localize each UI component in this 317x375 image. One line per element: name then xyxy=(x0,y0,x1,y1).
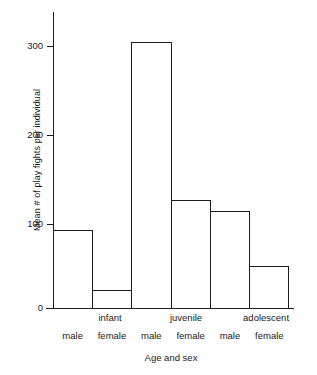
x-age-label-0 xyxy=(53,312,91,323)
x-axis-age-labels: infant juvenile adolescent xyxy=(53,312,289,323)
bar-adolescent-female xyxy=(249,266,289,308)
x-axis-sex-labels: male female male female male female xyxy=(53,330,289,341)
x-age-label-2 xyxy=(129,312,167,323)
x-age-label-4 xyxy=(205,312,243,323)
x-age-label-5: adolescent xyxy=(243,312,289,323)
x-sex-label-1: female xyxy=(92,330,131,341)
x-age-label-1: infant xyxy=(91,312,129,323)
y-tick-mark-0 xyxy=(47,308,54,309)
x-sex-label-5: female xyxy=(250,330,289,341)
bar-series xyxy=(53,12,289,308)
y-axis-title: Mean # of play fights per individual xyxy=(32,60,42,260)
x-sex-label-2: male xyxy=(132,330,171,341)
y-tick-label-200: 200 xyxy=(3,130,43,140)
y-tick-label-300: 300 xyxy=(3,41,43,51)
bar-chart: Mean # of play fights per individual 0 1… xyxy=(0,0,317,375)
bar-juvenile-female xyxy=(171,200,211,308)
x-sex-label-0: male xyxy=(53,330,92,341)
x-sex-label-3: female xyxy=(171,330,210,341)
x-axis-title: Age and sex xyxy=(53,352,289,363)
x-sex-label-4: male xyxy=(210,330,249,341)
y-tick-label-0: 0 xyxy=(3,303,43,313)
bar-juvenile-male xyxy=(131,42,171,308)
y-tick-label-100: 100 xyxy=(3,219,43,229)
bar-infant-male xyxy=(53,230,93,308)
bar-infant-female xyxy=(92,290,132,308)
x-axis-line xyxy=(46,308,294,309)
bar-adolescent-male xyxy=(210,211,250,309)
plot-area xyxy=(53,12,289,308)
x-age-label-3: juvenile xyxy=(167,312,205,323)
